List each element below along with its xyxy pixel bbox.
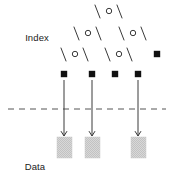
tree-edge-icon [141,27,146,40]
filled-square-icon [135,71,141,77]
tree-edge-icon [119,27,124,40]
circle-node-icon [116,51,121,56]
data-block-icon [85,137,100,158]
data-file-label-line1: Data [12,161,58,172]
data-block-icon [57,137,72,158]
data-block-icon [131,137,146,158]
filled-square-icon [154,51,160,57]
filled-square-icon [112,71,118,77]
index-data-file-diagram: Index Data file [0,0,171,174]
circle-node-icon [130,30,135,35]
tree-edge-icon [127,48,132,61]
tree-edge-icon [83,48,88,61]
index-label: Index [14,32,60,43]
filled-square-icon [89,71,95,77]
tree-edge-icon [74,27,79,40]
circle-node-icon [106,8,111,13]
tree-edge-icon [96,27,101,40]
data-file-label: Data file [12,139,58,174]
circle-node-icon [72,51,77,56]
tree-edge-icon [105,48,110,61]
tree-edge-icon [95,5,100,18]
tree-circle-nodes [72,8,135,56]
data-blocks [57,137,146,158]
tree-edge-icon [117,5,122,18]
tree-edge-icon [61,48,66,61]
pointer-arrows [61,80,141,136]
circle-node-icon [85,30,90,35]
filled-square-icon [61,71,67,77]
